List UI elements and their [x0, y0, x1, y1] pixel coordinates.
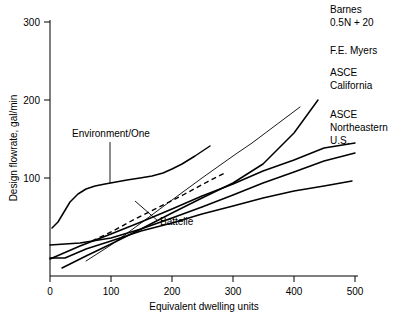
x-tick-labels: 0 100 200 300 400 500	[47, 286, 364, 297]
series-label-formula: 0.5N + 20	[330, 17, 374, 28]
y-tick-label-300: 300	[23, 17, 40, 28]
series-line-asce-northeastern	[50, 181, 352, 258]
axes-group	[44, 20, 358, 282]
annotation-environment-one: Environment/One	[72, 128, 150, 139]
annotation-battelle: Battelle	[160, 216, 194, 227]
series-label-barnes: Barnes	[330, 4, 362, 15]
series-label-asce-northeastern-line2: Northeastern	[330, 122, 388, 133]
series-label-asce-california-line2: California	[330, 80, 373, 91]
series-label-asce-california-line1: ASCE	[330, 67, 358, 78]
y-tick-label-100: 100	[23, 173, 40, 184]
annotations-group: Environment/One Battelle	[72, 128, 194, 227]
series-curves	[50, 100, 355, 268]
series-label-fe-myers: F.E. Myers	[330, 45, 377, 56]
x-tick-label-300: 300	[225, 286, 242, 297]
chart-svg: 300 200 100 0 100 200 300 400 500 Equiva…	[0, 0, 399, 315]
y-tick-labels: 300 200 100	[23, 17, 40, 184]
x-tick-label-0: 0	[47, 286, 53, 297]
series-labels-group: Barnes 0.5N + 20 F.E. Myers ASCE Califor…	[330, 4, 388, 146]
y-axis-title: Design flowrate, gal/min	[8, 95, 19, 202]
x-tick-label-100: 100	[103, 286, 120, 297]
series-line-formula	[62, 100, 318, 268]
series-label-asce-northeastern-line3: U.S.	[330, 135, 349, 146]
x-axis-title: Equivalent dwelling units	[149, 301, 259, 312]
x-tick-label-400: 400	[286, 286, 303, 297]
series-line-fe-myers	[50, 143, 355, 259]
x-tick-label-200: 200	[164, 286, 181, 297]
series-label-asce-northeastern-line1: ASCE	[330, 109, 358, 120]
y-tick-label-200: 200	[23, 95, 40, 106]
x-tick-label-500: 500	[347, 286, 364, 297]
chart-figure: 300 200 100 0 100 200 300 400 500 Equiva…	[0, 0, 399, 315]
series-line-asce-california	[50, 153, 355, 245]
